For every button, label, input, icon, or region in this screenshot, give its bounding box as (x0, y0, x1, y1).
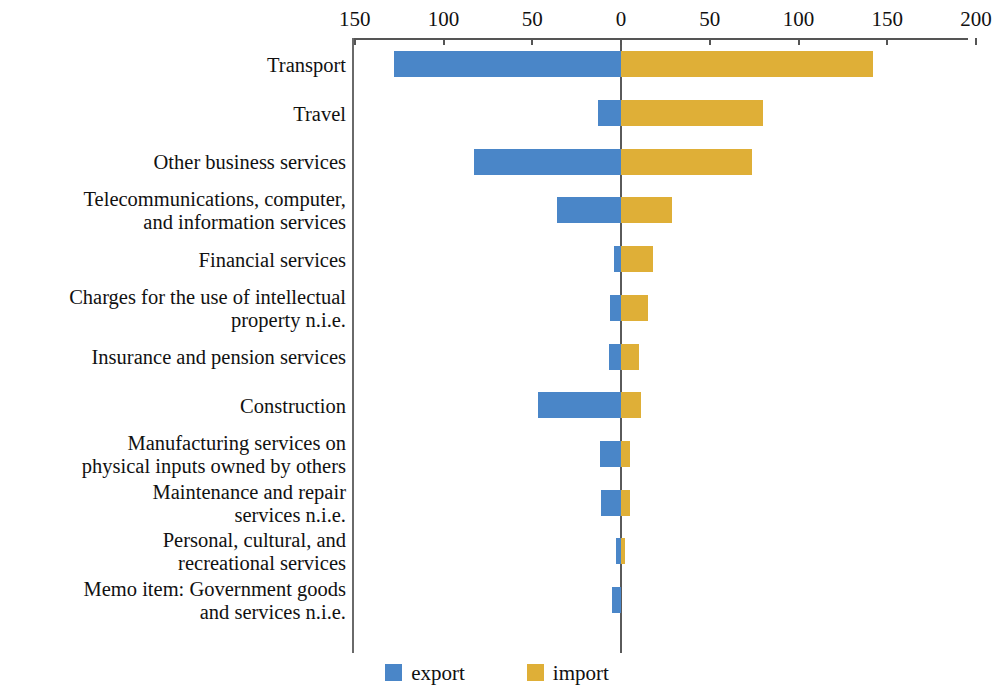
x-axis-tick-label: 50 (699, 6, 720, 32)
bar-export (474, 149, 621, 175)
x-axis-tick-mark (354, 38, 356, 45)
legend-swatch-icon (527, 664, 544, 681)
bar-import (621, 490, 630, 516)
legend-swatch-icon (385, 664, 402, 681)
chart-row: Maintenance and repair services n.i.e. (0, 478, 994, 527)
bar-import (621, 344, 639, 370)
bar-import (621, 100, 763, 126)
bar-import (621, 392, 641, 418)
bar-export (614, 246, 621, 272)
bar-export (598, 100, 621, 126)
x-axis-tick-mark (620, 38, 622, 45)
row-bars (0, 332, 994, 381)
x-axis-tick-mark (798, 38, 800, 45)
bar-import (621, 441, 630, 467)
chart-row: Transport (0, 40, 994, 89)
row-bars (0, 284, 994, 333)
chart-row: Charges for the use of intellectual prop… (0, 284, 994, 333)
chart-row: Manufacturing services on physical input… (0, 430, 994, 479)
bar-export (394, 51, 621, 77)
chart-row: Construction (0, 381, 994, 430)
row-bars (0, 381, 994, 430)
bar-export (600, 441, 621, 467)
x-axis-tick-mark (886, 38, 888, 45)
chart-row: Financial services (0, 235, 994, 284)
chart-legend: exportimport (0, 656, 994, 689)
chart-row: Telecommunications, computer, and inform… (0, 186, 994, 235)
row-bars (0, 235, 994, 284)
x-axis-tick-label: 50 (522, 6, 543, 32)
bar-import (621, 295, 648, 321)
chart-rows: TransportTravelOther business servicesTe… (0, 40, 994, 653)
bar-export (609, 344, 621, 370)
bar-export (601, 490, 621, 516)
x-axis-tick-label: 150 (872, 6, 904, 32)
x-axis-tick-mark (709, 38, 711, 45)
row-bars (0, 40, 994, 89)
x-axis-tick-label: 0 (616, 6, 627, 32)
bar-import (621, 149, 752, 175)
bar-export (612, 587, 621, 613)
x-axis-tick-label: 150 (339, 6, 371, 32)
x-axis-tick-label: 100 (783, 6, 815, 32)
bar-export (610, 295, 621, 321)
x-axis-tick-mark (531, 38, 533, 45)
x-axis-tick-mark (975, 38, 977, 45)
chart-row: Travel (0, 89, 994, 138)
x-axis-tick-mark (443, 38, 445, 45)
chart-row: Memo item: Government goods and services… (0, 576, 994, 625)
x-axis-tick-labels: 15010050050100150200 (0, 6, 994, 32)
bar-import (621, 197, 672, 223)
legend-item[interactable]: export (385, 661, 465, 685)
legend-label: import (553, 661, 609, 685)
row-bars (0, 137, 994, 186)
bar-export (557, 197, 621, 223)
row-bars (0, 430, 994, 479)
bidirectional-bar-chart: 15010050050100150200 TransportTravelOthe… (0, 0, 994, 689)
row-bars (0, 478, 994, 527)
bar-import (621, 246, 653, 272)
bar-export (538, 392, 621, 418)
row-bars (0, 186, 994, 235)
x-axis-tick-label: 100 (428, 6, 460, 32)
legend-label: export (411, 661, 465, 685)
legend-item[interactable]: import (527, 661, 609, 685)
bar-import (621, 538, 625, 564)
bar-import (621, 51, 873, 77)
row-bars (0, 576, 994, 625)
row-bars (0, 527, 994, 576)
chart-row: Insurance and pension services (0, 332, 994, 381)
chart-row: Personal, cultural, and recreational ser… (0, 527, 994, 576)
row-bars (0, 89, 994, 138)
chart-row: Other business services (0, 137, 994, 186)
x-axis-tick-label: 200 (960, 6, 992, 32)
